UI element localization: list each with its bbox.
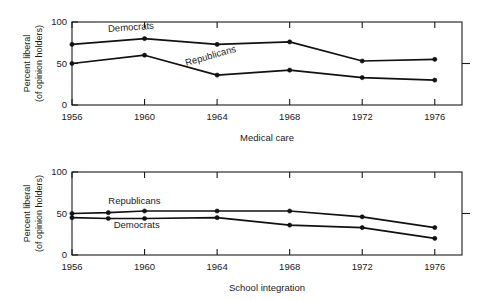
data-point-republicans — [288, 68, 292, 72]
data-point-democrats — [360, 59, 364, 63]
x-axis-tick-label: 1976 — [424, 261, 445, 272]
data-point-democrats — [106, 216, 110, 220]
x-axis-tick-label: 1956 — [61, 261, 82, 272]
series-label-republicans: Republicans — [108, 195, 161, 206]
x-axis-tick-label: 1968 — [279, 261, 300, 272]
data-point-republicans — [360, 215, 364, 219]
data-point-democrats — [215, 42, 219, 46]
x-axis-tick-label: 1972 — [352, 261, 373, 272]
x-axis-tick-label: 1976 — [424, 111, 445, 122]
data-point-republicans — [360, 76, 364, 80]
school-integration-labels: School integrationPercent liberal(of opi… — [22, 175, 305, 293]
plot-frame — [72, 172, 462, 255]
plot-frame — [72, 22, 462, 105]
y-axis-tick-label: 0 — [62, 99, 67, 110]
y-axis-tick-label: 100 — [51, 16, 67, 27]
data-point-democrats — [215, 216, 219, 220]
two-panel-line-chart-figure: 050100195619601964196819721976 Medical c… — [0, 0, 488, 300]
medical-care-svg: 050100195619601964196819721976 Medical c… — [0, 0, 488, 150]
chart-panel-medical-care: 050100195619601964196819721976 Medical c… — [0, 0, 488, 150]
x-axis-title: Medical care — [240, 132, 294, 143]
y-axis-title-line2: (of opinion holders) — [34, 175, 44, 252]
data-point-republicans — [142, 53, 146, 57]
y-axis-tick-label: 100 — [51, 166, 67, 177]
y-axis-tick-label: 50 — [56, 58, 67, 69]
x-axis-tick-label: 1964 — [207, 111, 228, 122]
x-axis-tick-label: 1964 — [207, 261, 228, 272]
y-axis-tick-label: 50 — [56, 208, 67, 219]
medical-care-series — [70, 37, 437, 83]
data-point-republicans — [433, 78, 437, 82]
data-point-democrats — [433, 57, 437, 61]
x-axis-title: School integration — [229, 282, 305, 293]
series-label-democrats: Democrats — [108, 20, 155, 34]
data-point-republicans — [215, 73, 219, 77]
school-integration-svg: 050100195619601964196819721976 School in… — [0, 150, 488, 300]
data-point-democrats — [288, 40, 292, 44]
x-axis-tick-label: 1968 — [279, 111, 300, 122]
chart-panel-school-integration: 050100195619601964196819721976 School in… — [0, 150, 488, 300]
data-point-republicans — [70, 61, 74, 65]
data-point-republicans — [70, 211, 74, 215]
data-point-republicans — [288, 209, 292, 213]
data-point-republicans — [142, 209, 146, 213]
data-point-democrats — [288, 223, 292, 227]
data-point-democrats — [70, 42, 74, 46]
y-axis-title-line1: Percent liberal — [22, 35, 32, 93]
data-point-republicans — [215, 209, 219, 213]
x-axis-tick-label: 1960 — [134, 261, 155, 272]
y-axis-title-line2: (of opinion holders) — [34, 25, 44, 102]
x-axis-tick-label: 1960 — [134, 111, 155, 122]
data-point-democrats — [142, 37, 146, 41]
y-axis-tick-label: 0 — [62, 249, 67, 260]
series-line-republicans — [72, 55, 435, 80]
data-point-democrats — [433, 236, 437, 240]
series-label-republicans: Republicans — [184, 43, 238, 68]
data-point-republicans — [433, 226, 437, 230]
data-point-republicans — [106, 211, 110, 215]
data-point-democrats — [70, 216, 74, 220]
x-axis-tick-label: 1956 — [61, 111, 82, 122]
medical-care-labels: Medical carePercent liberal(of opinion h… — [22, 20, 294, 143]
x-axis-tick-label: 1972 — [352, 111, 373, 122]
series-label-democrats: Democrats — [114, 219, 160, 230]
y-axis-title-line1: Percent liberal — [22, 185, 32, 243]
data-point-democrats — [360, 226, 364, 230]
